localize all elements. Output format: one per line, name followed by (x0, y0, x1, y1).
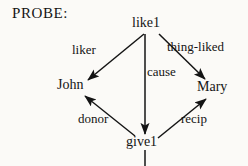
node-mary: Mary (197, 80, 227, 94)
probe-label: PROBE: (12, 6, 68, 21)
edge-label-recip: recip (181, 112, 207, 125)
edge-label-liker: liker (72, 43, 96, 56)
edge-liker-line (88, 34, 144, 80)
node-give1: give1 (126, 135, 157, 149)
edge-label-donor: donor (78, 112, 108, 125)
node-like1: like1 (132, 16, 160, 30)
edge-label-thing-liked: thing-liked (167, 40, 224, 53)
node-john: John (57, 78, 83, 92)
edge-label-cause: cause (147, 65, 176, 78)
probe-diagram-figure: PROBE: like1 John Mary give1 liker thing… (0, 0, 248, 166)
